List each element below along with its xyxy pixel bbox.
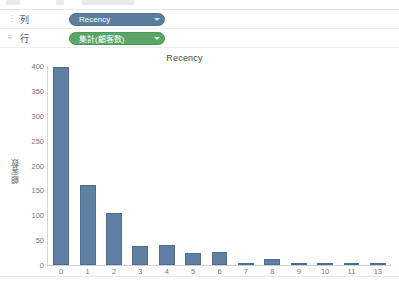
bar-slot [233,66,259,265]
x-tick-label[interactable]: 5 [180,267,206,276]
x-tick-label[interactable]: 13 [365,267,391,276]
columns-shelf-dropzone[interactable]: Recency [29,10,399,28]
bar[interactable] [370,263,386,265]
bar-slot [365,66,391,265]
x-tick-label[interactable]: 2 [101,267,127,276]
x-tick-label[interactable]: 9 [286,267,312,276]
bar-slot [206,66,232,265]
columns-shelf[interactable]: ⋮⋮ 列 Recency [0,10,399,29]
bar[interactable] [344,263,360,265]
y-tick-label: 300 [22,111,44,120]
x-tick-label[interactable]: 1 [74,267,100,276]
x-axis-line [47,265,391,266]
bar-slot [48,66,74,265]
toolbar-strip [0,0,399,10]
columns-grip-icon: ⋮⋮ [8,15,17,23]
bar[interactable] [159,245,175,265]
rows-shelf-label: 行 [20,32,29,45]
x-tick-label[interactable]: 4 [154,267,180,276]
x-tick-label[interactable]: 7 [233,267,259,276]
bar[interactable] [106,213,122,265]
x-tick-label[interactable]: 10 [312,267,338,276]
x-tick-label[interactable]: 3 [127,267,153,276]
rows-grip-icon: ≡ [8,34,17,42]
y-tick-label: 150 [22,186,44,195]
y-axis-title: 顧客数 [10,158,21,184]
rows-shelf-dropzone[interactable]: 集計(顧客数) [29,29,399,47]
toolbar-ghost-right [82,0,134,5]
bar[interactable] [132,246,148,265]
bar-slot [101,66,127,265]
toolbar-ghost-mid [56,0,64,5]
bar-slot [312,66,338,265]
y-tick-label: 350 [22,86,44,95]
bar[interactable] [317,263,333,265]
y-tick-label: 50 [22,236,44,245]
columns-shelf-label: 列 [20,13,29,26]
bar-slot [74,66,100,265]
bars-container [48,66,391,265]
plot-wrapper: 顧客数 050100150200250300350400 01234567891… [0,66,399,276]
bar-slot [127,66,153,265]
y-tick-label: 100 [22,211,44,220]
bar-slot [286,66,312,265]
y-tick-label: 0 [22,261,44,270]
y-axis-ticks: 050100150200250300350400 [22,66,44,265]
pill-recency[interactable]: Recency [69,13,165,26]
x-tick-label[interactable]: 6 [206,267,232,276]
x-tick-label[interactable]: 11 [338,267,364,276]
bottom-strip [0,277,399,286]
x-tick-label[interactable]: 0 [48,267,74,276]
x-tick-label[interactable]: 8 [259,267,285,276]
chart-title: Recency [0,48,399,63]
bar-slot [180,66,206,265]
y-tick-label: 250 [22,136,44,145]
bar[interactable] [238,263,254,265]
pill-customer-count[interactable]: 集計(顧客数) [69,32,165,45]
bar[interactable] [264,259,280,265]
bar[interactable] [80,185,96,265]
bar-slot [338,66,364,265]
y-tick-label: 200 [22,161,44,170]
x-axis-labels: 0123456789101113 [48,267,391,276]
bar-slot [154,66,180,265]
bar[interactable] [291,263,307,265]
bar-slot [259,66,285,265]
bar[interactable] [212,252,228,265]
bar[interactable] [53,67,69,265]
toolbar-ghost-left [6,0,20,5]
y-tick-label: 400 [22,62,44,71]
worksheet-view[interactable]: Recency 顧客数 050100150200250300350400 012… [0,48,399,277]
bar[interactable] [185,253,201,265]
rows-shelf[interactable]: ≡ 行 集計(顧客数) [0,29,399,48]
